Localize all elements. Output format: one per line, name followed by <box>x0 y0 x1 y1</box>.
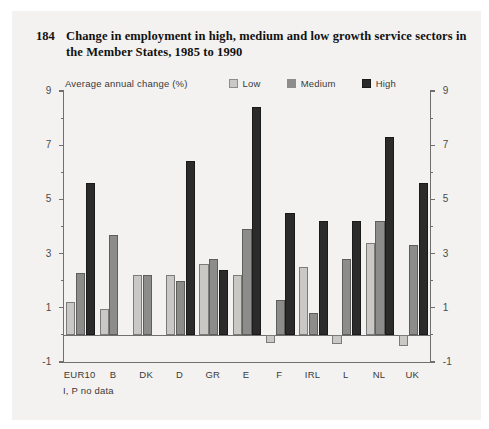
bar-b-low[interactable] <box>100 309 109 335</box>
legend-swatch-low <box>229 79 238 88</box>
bar-group-gr <box>199 91 228 362</box>
legend-entries: Low Medium High <box>229 78 396 89</box>
bar-f-low[interactable] <box>266 335 275 343</box>
figure-title-block: 184 Change in employment in high, medium… <box>36 28 473 60</box>
y-axis-label-left-5: 5 <box>27 194 51 204</box>
y-tick-right-2 <box>430 280 433 281</box>
y-tick-right-3 <box>430 253 435 254</box>
x-axis-label-f: F <box>263 369 296 380</box>
bar-l-medium[interactable] <box>342 259 351 335</box>
bar-eur10-low[interactable] <box>66 302 75 335</box>
x-axis-label-eur10: EUR10 <box>63 369 96 380</box>
bar-irl-high[interactable] <box>319 221 328 335</box>
bar-group-d <box>166 91 195 362</box>
bar-group-irl <box>299 91 328 362</box>
y-tick-right-8 <box>430 118 433 119</box>
y-axis-label-left-3: 3 <box>27 249 51 259</box>
bar-e-medium[interactable] <box>242 229 251 335</box>
figure-number: 184 <box>36 28 66 44</box>
legend-label-medium: Medium <box>301 78 336 89</box>
y-axis-label-right-5: 5 <box>443 194 467 204</box>
legend-item-high: High <box>362 78 396 89</box>
page-top-margin <box>0 0 489 11</box>
figure-page: 184 Change in employment in high, medium… <box>0 0 489 429</box>
bar-irl-medium[interactable] <box>309 313 318 335</box>
y-axis-label-right-3: 3 <box>443 249 467 259</box>
y-axis-label-left-7: 7 <box>27 140 51 150</box>
plot-area: -1-11133557799 <box>63 91 431 363</box>
y-tick-right-1 <box>430 307 435 308</box>
bar-nl-medium[interactable] <box>375 221 384 335</box>
bar-group-eur10 <box>66 91 95 362</box>
bar-uk-low[interactable] <box>399 335 408 346</box>
y-tick-right--1 <box>430 361 435 362</box>
legend-item-medium: Medium <box>287 78 336 89</box>
y-axis-label-right-1: 1 <box>443 303 467 313</box>
bar-group-f <box>266 91 295 362</box>
y-tick-right-5 <box>430 199 435 200</box>
bar-group-l <box>332 91 361 362</box>
bar-eur10-high[interactable] <box>86 183 95 335</box>
y-tick-right-6 <box>430 172 433 173</box>
x-axis-label-uk: UK <box>396 369 429 380</box>
bar-dk-medium[interactable] <box>143 275 152 335</box>
legend-swatch-medium <box>287 79 296 88</box>
x-axis-label-gr: GR <box>196 369 229 380</box>
bar-nl-high[interactable] <box>385 137 394 335</box>
y-axis-label-right--1: -1 <box>443 357 467 367</box>
bar-l-high[interactable] <box>352 221 361 335</box>
x-axis-label-b: B <box>96 369 129 380</box>
x-axis-label-nl: NL <box>362 369 395 380</box>
bar-gr-low[interactable] <box>199 264 208 334</box>
y-axis-label-left-9: 9 <box>27 86 51 96</box>
bar-f-medium[interactable] <box>276 300 285 335</box>
bar-group-uk <box>399 91 428 362</box>
bar-irl-low[interactable] <box>299 267 308 335</box>
figure-footnote: I, P no data <box>63 385 114 396</box>
x-axis-label-l: L <box>329 369 362 380</box>
bar-l-low[interactable] <box>332 335 341 344</box>
legend-label-low: Low <box>243 78 261 89</box>
legend-item-low: Low <box>229 78 261 89</box>
y-tick-right-9 <box>430 90 435 91</box>
bar-uk-high[interactable] <box>419 183 428 335</box>
bar-d-low[interactable] <box>166 275 175 335</box>
chart-legend: Average annual change (%) Low Medium Hig… <box>65 76 469 90</box>
legend-swatch-high <box>362 79 371 88</box>
legend-label-high: High <box>376 78 396 89</box>
y-tick-right-4 <box>430 226 433 227</box>
bar-group-nl <box>366 91 395 362</box>
bar-nl-low[interactable] <box>366 243 375 335</box>
page-bottom-margin <box>0 420 489 429</box>
bar-b-medium[interactable] <box>109 235 118 335</box>
bar-uk-medium[interactable] <box>409 245 418 334</box>
bar-d-high[interactable] <box>186 161 195 334</box>
y-tick-right-7 <box>430 145 435 146</box>
x-axis-label-d: D <box>163 369 196 380</box>
bar-gr-high[interactable] <box>219 270 228 335</box>
y-axis-unit-label: Average annual change (%) <box>65 78 188 89</box>
bar-group-dk <box>133 91 162 362</box>
bar-group-e <box>233 91 262 362</box>
bar-e-low[interactable] <box>233 275 242 335</box>
x-axis-label-dk: DK <box>130 369 163 380</box>
figure-title: Change in employment in high, medium and… <box>66 28 473 60</box>
y-axis-label-left-1: 1 <box>27 303 51 313</box>
bar-e-high[interactable] <box>252 107 261 335</box>
bar-gr-medium[interactable] <box>209 259 218 335</box>
bar-group-b <box>100 91 129 362</box>
bar-f-high[interactable] <box>285 213 294 335</box>
y-axis-label-left--1: -1 <box>27 357 51 367</box>
bar-d-medium[interactable] <box>176 281 185 335</box>
bars-layer <box>64 91 430 362</box>
x-axis-label-e: E <box>229 369 262 380</box>
x-axis-label-irl: IRL <box>296 369 329 380</box>
bar-eur10-medium[interactable] <box>76 273 85 335</box>
y-tick-right-0 <box>430 334 433 335</box>
y-axis-label-right-7: 7 <box>443 140 467 150</box>
bar-dk-low[interactable] <box>133 275 142 335</box>
